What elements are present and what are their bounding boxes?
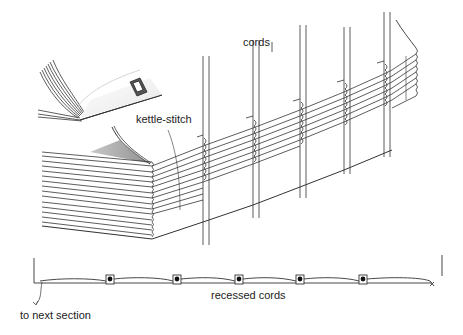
- cords-group: [197, 12, 390, 245]
- recess-1: [106, 275, 114, 284]
- recess-2: [173, 275, 181, 284]
- cords-label: cords: [243, 37, 270, 48]
- bookbinding-diagram: cords kettle-stitch recessed cords to ne…: [0, 0, 463, 335]
- text-block-sections: [42, 20, 418, 239]
- recessed-cords-label: recessed cords: [211, 290, 286, 301]
- kettle-stitch-label: kettle-stitch: [136, 114, 192, 125]
- recess-3: [235, 275, 243, 284]
- to-next-section-label: to next section: [20, 310, 91, 321]
- cord-4: [337, 27, 350, 174]
- recess-4: [296, 275, 304, 284]
- recess-5: [359, 275, 367, 284]
- diagram-artwork: [0, 0, 463, 335]
- cord-5: [377, 12, 390, 157]
- inset-section-illustration: [38, 60, 162, 121]
- cord-2: [246, 40, 259, 218]
- cord-3: [293, 25, 306, 198]
